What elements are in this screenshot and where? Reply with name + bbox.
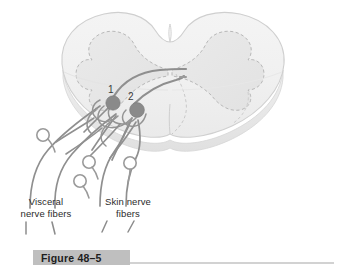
label-leader-dashes [26,221,134,234]
figure-root: Visceral nerve fibers Skin nerve fibers … [0,0,340,275]
figure-caption-label: Figure 48–5 [41,252,102,264]
spinal-cord-diagram [0,0,340,275]
ganglion-cell-4 [124,157,136,169]
ganglion-cell-2 [83,156,95,168]
dorsal-median-sulcus [169,24,171,42]
label-visceral-nerve-fibers: Visceral nerve fibers [8,196,84,219]
ganglion-cell-3 [74,175,86,187]
figure-caption-rule [130,262,334,264]
label-skin-nerve-fibers: Skin nerve fibers [90,196,166,219]
neuron-number-2: 2 [128,91,134,102]
neuron-cell-body-1 [106,96,120,110]
neuron-number-1: 1 [108,84,114,95]
neuron-cell-body-2 [130,103,145,118]
